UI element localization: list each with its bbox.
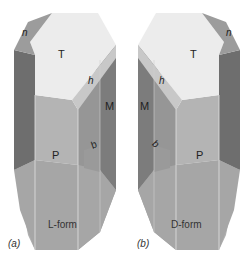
label-n: n xyxy=(22,27,28,38)
sublabel-a: (a) xyxy=(8,238,20,249)
face-left-dark xyxy=(14,50,35,170)
label-t-d: T xyxy=(190,48,197,60)
label-t: T xyxy=(58,48,65,60)
sublabel-b: (b) xyxy=(137,238,149,249)
crystal-d-form xyxy=(138,13,240,250)
label-p: P xyxy=(52,149,59,161)
caption-d-form: D-form xyxy=(171,219,202,230)
crystal-diagram: T n h M P b L-form (a) T n h M P b D-for… xyxy=(0,0,249,256)
label-n-d: n xyxy=(226,27,232,38)
label-p-d: P xyxy=(196,149,203,161)
crystal-l-form: T n h M P b L-form (a) xyxy=(8,13,116,250)
label-m-d: M xyxy=(140,100,149,112)
caption-l-form: L-form xyxy=(48,219,77,230)
label-h: h xyxy=(88,75,94,86)
label-h-d: h xyxy=(159,75,165,86)
label-m: M xyxy=(105,100,114,112)
